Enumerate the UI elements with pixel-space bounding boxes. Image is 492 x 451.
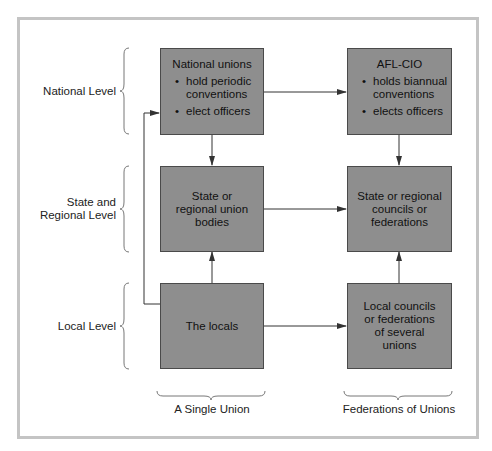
box-line: State or	[192, 190, 232, 203]
box-line: councils or	[372, 203, 427, 216]
bullet-item: hold periodic conventions	[175, 75, 263, 101]
box-line: of several	[375, 326, 425, 339]
box-title: National unions	[161, 58, 263, 71]
level-label-state-line1: State and	[30, 196, 116, 209]
box-local-councils: Local councils or federations of several…	[347, 283, 452, 369]
box-line: or federations	[364, 313, 434, 326]
column-label-federations: Federations of Unions	[330, 403, 468, 415]
brace-state	[120, 166, 129, 252]
level-label-state-regional: State and Regional Level	[30, 196, 116, 222]
bullet-item: holds biannual conventions	[362, 75, 451, 101]
box-line: regional union	[176, 203, 248, 216]
bullet-list: holds biannual conventions elects office…	[348, 75, 451, 118]
brace-local	[120, 283, 129, 369]
box-title: AFL-CIO	[348, 58, 451, 71]
bullet-item: elects officers	[362, 105, 451, 118]
brace-single-union	[157, 391, 265, 400]
bullet-list: hold periodic conventions elect officers	[161, 75, 263, 118]
bullet-item: elect officers	[175, 105, 263, 118]
brace-federations	[344, 391, 452, 400]
level-label-local: Local Level	[30, 320, 116, 333]
box-national-unions: National unions hold periodic convention…	[160, 48, 264, 135]
level-label-state-line2: Regional Level	[30, 209, 116, 222]
brace-national	[120, 48, 129, 134]
box-locals: The locals	[160, 283, 264, 369]
level-label-national: National Level	[30, 85, 116, 98]
box-afl-cio: AFL-CIO holds biannual conventions elect…	[347, 48, 452, 135]
box-line: Local councils	[363, 300, 435, 313]
box-state-union-bodies: State or regional union bodies	[160, 166, 264, 252]
box-line: The locals	[186, 320, 238, 333]
box-line: bodies	[195, 216, 229, 229]
box-line: unions	[383, 339, 417, 352]
box-line: federations	[371, 216, 428, 229]
box-state-councils: State or regional councils or federation…	[347, 166, 452, 252]
column-label-single-union: A Single Union	[150, 403, 274, 415]
box-line: State or regional	[357, 190, 441, 203]
